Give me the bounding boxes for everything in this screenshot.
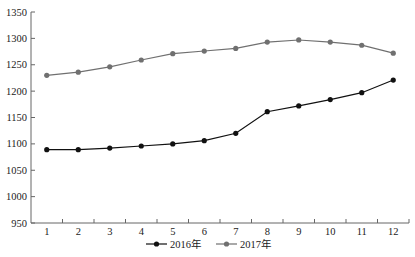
y-tick-label: 1200 <box>6 86 27 97</box>
data-point <box>391 51 396 56</box>
data-point <box>328 39 333 44</box>
legend-item: 2017年 <box>216 238 271 250</box>
y-tick-label: 1000 <box>6 191 27 202</box>
x-tick-label: 7 <box>233 226 238 237</box>
legend-label: 2016年 <box>170 238 201 250</box>
data-point <box>170 141 175 146</box>
x-tick-label: 10 <box>325 226 336 237</box>
data-point <box>359 43 364 48</box>
legend-label: 2017年 <box>240 238 271 250</box>
y-tick-label: 1050 <box>6 165 27 176</box>
legend-marker-icon <box>224 241 229 246</box>
data-point <box>107 64 112 69</box>
x-tick-label: 2 <box>76 226 81 237</box>
data-point <box>202 138 207 143</box>
x-tick-label: 9 <box>296 226 301 237</box>
x-tick-label: 4 <box>139 226 145 237</box>
x-tick-label: 11 <box>357 226 367 237</box>
x-tick-label: 6 <box>202 226 207 237</box>
data-point <box>76 147 81 152</box>
x-tick-label: 3 <box>107 226 112 237</box>
series-2 <box>44 37 396 78</box>
legend-item: 2016年 <box>146 238 201 250</box>
data-point <box>44 73 49 78</box>
y-tick-label: 1300 <box>6 33 27 44</box>
series-group <box>44 37 396 152</box>
chart-canvas: 95010001050110011501200125013001350 1234… <box>0 0 415 257</box>
data-point <box>76 70 81 75</box>
series-1 <box>44 77 396 152</box>
data-point <box>233 131 238 136</box>
x-tick-label: 8 <box>265 226 270 237</box>
data-point <box>44 147 49 152</box>
legend-marker-icon <box>154 241 159 246</box>
data-point <box>265 39 270 44</box>
x-tick-label: 12 <box>388 226 399 237</box>
data-point <box>328 97 333 102</box>
x-tick-label: 5 <box>170 226 175 237</box>
data-point <box>170 51 175 56</box>
data-point <box>139 143 144 148</box>
line-chart: 95010001050110011501200125013001350 1234… <box>0 0 415 257</box>
y-tick-label: 1350 <box>6 7 27 18</box>
y-tick-label: 1250 <box>6 59 27 70</box>
data-point <box>139 57 144 62</box>
x-tick-label: 1 <box>44 226 49 237</box>
y-tick-label: 1150 <box>6 112 27 123</box>
legend: 2016年2017年 <box>146 238 271 250</box>
data-point <box>202 48 207 53</box>
data-point <box>107 145 112 150</box>
y-axis: 95010001050110011501200125013001350 <box>6 7 35 229</box>
data-point <box>265 109 270 114</box>
data-point <box>391 77 396 82</box>
data-point <box>296 103 301 108</box>
y-tick-label: 950 <box>11 218 27 229</box>
data-point <box>296 37 301 42</box>
y-tick-label: 1100 <box>6 138 27 149</box>
data-point <box>233 46 238 51</box>
x-axis: 123456789101112 <box>31 219 409 237</box>
data-point <box>359 90 364 95</box>
